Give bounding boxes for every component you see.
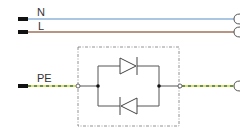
terminal-block-n bbox=[18, 17, 28, 21]
conductor-pe: PE bbox=[18, 72, 240, 91]
terminal-block-l bbox=[18, 30, 28, 34]
conductor-l: L bbox=[18, 20, 240, 37]
diode-bottom-icon bbox=[120, 97, 137, 115]
label-l: L bbox=[38, 20, 44, 32]
connector-hook-l-icon bbox=[234, 27, 240, 37]
junction-dot-left bbox=[96, 84, 100, 88]
anti-parallel-diode-network bbox=[80, 57, 178, 115]
connector-hook-pe-icon bbox=[234, 81, 240, 91]
connector-hook-n-icon bbox=[234, 14, 240, 24]
label-n: N bbox=[37, 6, 45, 18]
junction-dot-right bbox=[157, 84, 161, 88]
terminal-open-left bbox=[76, 84, 80, 88]
diode-top-icon bbox=[120, 57, 137, 75]
terminal-block-pe bbox=[18, 84, 28, 88]
schematic-diagram: N L PE bbox=[0, 0, 252, 134]
label-pe: PE bbox=[37, 72, 52, 84]
conductor-n: N bbox=[18, 6, 240, 24]
terminal-open-right bbox=[178, 84, 182, 88]
